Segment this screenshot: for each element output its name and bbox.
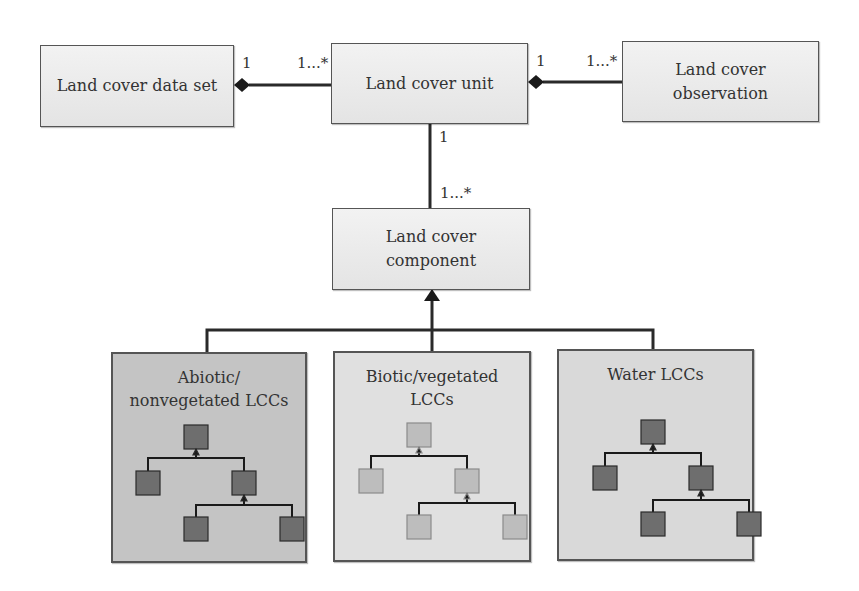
tree-abiotic — [136, 425, 304, 541]
tree-biotic — [359, 423, 527, 539]
tree-water — [593, 420, 761, 536]
mini-hierarchy-trees — [0, 0, 859, 591]
